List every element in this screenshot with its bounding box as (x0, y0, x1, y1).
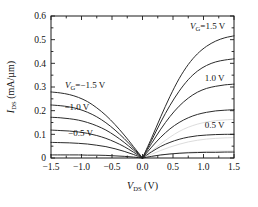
x-tick-label: 1.5 (228, 162, 240, 172)
y-tick-label: 0 (41, 153, 46, 163)
iv-characteristic-figure: −1.5−1.0−0.50.00.51.01.5 00.10.20.30.40.… (0, 0, 258, 207)
vg-neg-1p0-label: −1.0 V (64, 102, 89, 112)
chart-background (0, 0, 258, 207)
y-tick-label: 0.6 (34, 11, 46, 21)
x-tick-label: 0.5 (167, 162, 179, 172)
y-tick-label: 0.3 (34, 82, 46, 92)
x-axis-title: VDS (V) (127, 180, 158, 192)
x-tick-label: −0.5 (103, 162, 120, 172)
y-tick-label: 0.2 (34, 106, 46, 116)
vg-neg-0p5-label: −0.5 V (68, 128, 93, 138)
chart-canvas: −1.5−1.0−0.50.00.51.01.5 00.10.20.30.40.… (0, 0, 258, 207)
vg-pos-1p5-label: VG=1.5 V (190, 21, 226, 32)
y-tick-label: 0.1 (34, 130, 46, 140)
x-tick-label: −1.0 (73, 162, 90, 172)
y-tick-label: 0.4 (34, 59, 46, 69)
vg-pos-1p0-label: 1.0 V (205, 73, 225, 83)
y-tick-label: 0.5 (34, 35, 46, 45)
x-tick-label: 1.0 (198, 162, 210, 172)
x-tick-label: −1.5 (42, 162, 59, 172)
vg-pos-0p5-label: 0.5 V (205, 120, 225, 130)
x-tick-label: 0.0 (137, 162, 149, 172)
